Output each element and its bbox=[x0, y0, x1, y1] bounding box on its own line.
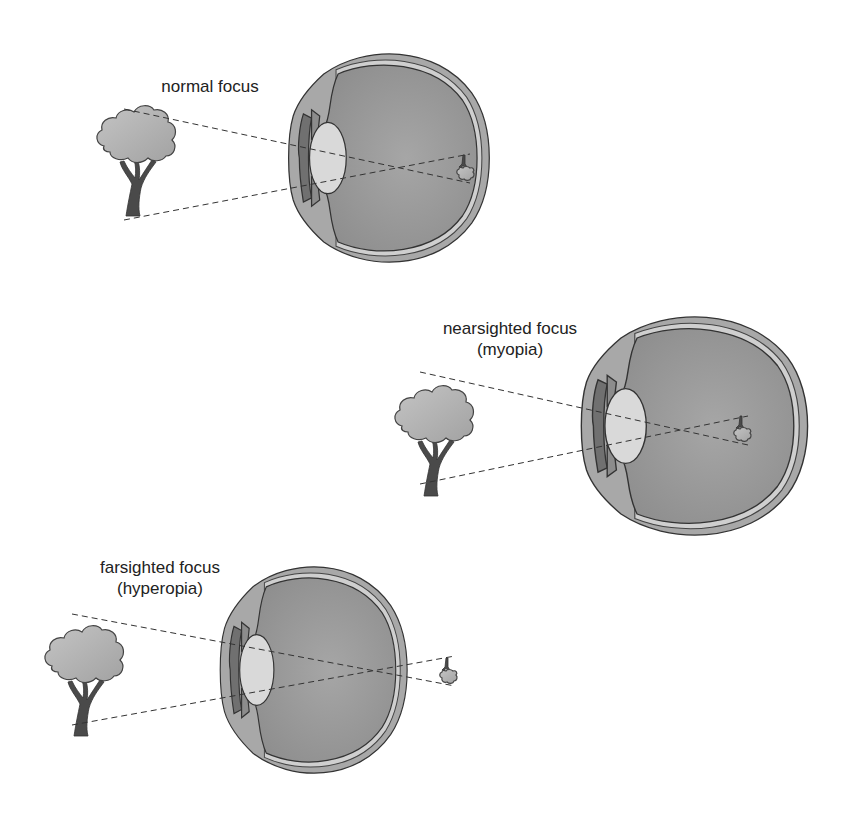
eye-nearsighted bbox=[581, 317, 807, 535]
panel-farsighted-focus bbox=[45, 567, 457, 773]
object-tree-icon bbox=[97, 106, 176, 216]
panel-normal-focus bbox=[97, 54, 489, 262]
object-tree-icon bbox=[395, 386, 474, 496]
panel-nearsighted-focus bbox=[395, 317, 808, 535]
object-tree-icon bbox=[45, 626, 124, 736]
eye-focus-diagram bbox=[0, 0, 850, 820]
eye-normal bbox=[289, 54, 490, 262]
focused-image-icon bbox=[440, 658, 457, 683]
